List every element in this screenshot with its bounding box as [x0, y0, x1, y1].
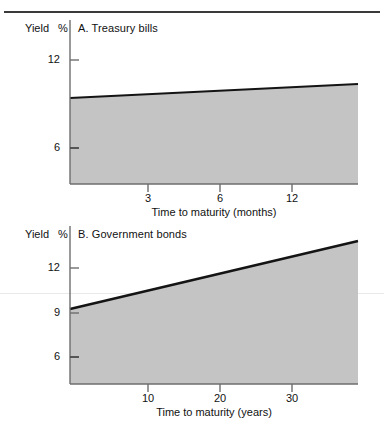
panel-b-xtick-10: 10: [138, 392, 158, 404]
panel-a-xtick-12: 12: [282, 192, 302, 204]
panel-government-bonds: Yield % B. Government bonds 12 9 6 10 20: [0, 224, 384, 442]
panel-a-plot-area: [0, 18, 384, 218]
panel-a-area-fill: [70, 84, 358, 184]
panel-b-x-axis-title: Time to maturity (years): [70, 406, 358, 418]
panel-a-xtick-3: 3: [138, 192, 158, 204]
panel-b-xtick-30: 30: [282, 392, 302, 404]
panel-b-area-fill: [70, 241, 358, 384]
top-horizontal-rule: [4, 11, 380, 13]
panel-b-xtick-20: 20: [210, 392, 230, 404]
panel-a-x-axis-title: Time to maturity (months): [70, 206, 358, 218]
figure-canvas: Yield % A. Treasury bills 12 6 3 6 12 Ti…: [0, 0, 384, 444]
panel-a-xtick-6: 6: [210, 192, 230, 204]
panel-treasury-bills: Yield % A. Treasury bills 12 6 3 6 12 Ti…: [0, 18, 384, 218]
